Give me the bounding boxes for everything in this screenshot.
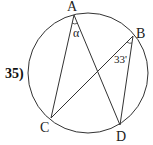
problem-number: 35) (5, 66, 24, 82)
point-label-A: A (67, 0, 78, 14)
angle-arc-B (127, 42, 132, 43)
angle-label-33: 33' (114, 53, 127, 65)
circle (28, 13, 148, 133)
point-label-B: B (136, 26, 145, 41)
segment-BD (120, 36, 133, 125)
angle-arc-A (72, 23, 78, 24)
segment-AD (74, 15, 120, 125)
inscribed-angles-diagram: A B C D α 33' 35) (0, 0, 153, 145)
segment-CB (51, 36, 133, 118)
point-label-D: D (116, 129, 126, 144)
segment-AC (51, 15, 74, 118)
point-label-C: C (40, 120, 49, 135)
angle-label-alpha: α (73, 26, 80, 40)
